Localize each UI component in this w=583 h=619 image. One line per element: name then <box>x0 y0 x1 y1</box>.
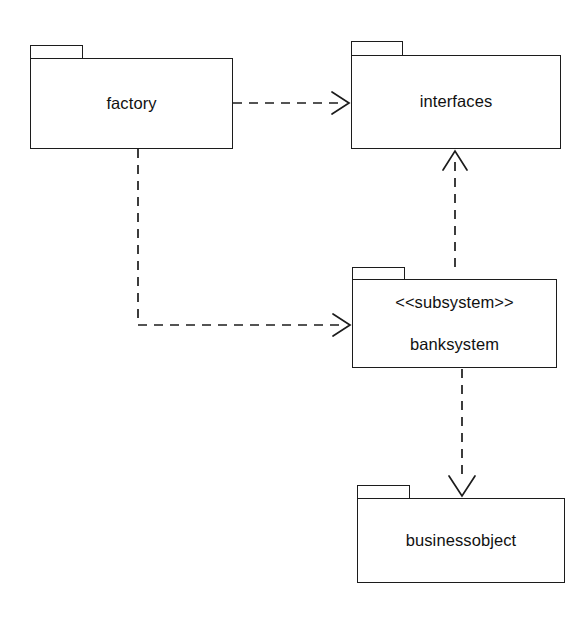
dependency-factory-to-interfaces <box>233 92 349 114</box>
package-tab <box>357 485 410 499</box>
package-label: interfaces <box>420 70 493 133</box>
package-businessobject[interactable]: businessobject <box>357 485 565 583</box>
package-label: <<subsystem>> banksystem <box>395 271 514 377</box>
package-label: businessobject <box>406 509 517 572</box>
package-label: factory <box>106 72 156 135</box>
package-body: interfaces <box>351 55 561 149</box>
dependency-banksystem-to-interfaces <box>443 151 467 267</box>
package-factory[interactable]: factory <box>30 45 233 149</box>
package-name: interfaces <box>420 91 493 112</box>
package-tab <box>30 45 83 59</box>
package-name: businessobject <box>406 530 517 551</box>
dependency-factory-to-banksystem <box>138 149 350 336</box>
package-tab <box>351 41 403 56</box>
uml-package-diagram: factory interfaces <<subsystem>> banksys… <box>0 0 583 619</box>
package-body: factory <box>30 58 233 149</box>
package-body: <<subsystem>> banksystem <box>352 279 557 368</box>
package-name: factory <box>106 93 156 114</box>
package-banksystem[interactable]: <<subsystem>> banksystem <box>352 267 557 368</box>
package-body: businessobject <box>357 498 565 583</box>
package-stereotype: <<subsystem>> <box>395 292 514 313</box>
dependency-line <box>138 149 345 325</box>
dependency-banksystem-to-businessobject <box>449 369 475 496</box>
package-name: banksystem <box>395 334 514 355</box>
package-interfaces[interactable]: interfaces <box>351 41 561 149</box>
